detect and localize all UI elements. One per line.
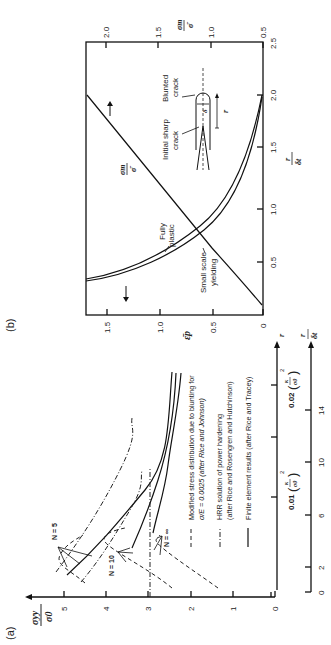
r-delta-tick-14: 14 bbox=[317, 406, 326, 415]
svg-text:2: 2 bbox=[279, 470, 285, 474]
sigma-yy-ticks: 0 1 2 3 4 5 bbox=[60, 591, 280, 611]
svg-text:σ0: σ0 bbox=[292, 379, 298, 385]
r-tick-1.0: 1.0 bbox=[269, 203, 278, 215]
small-scale-yielding-label-2: yielding bbox=[209, 259, 218, 286]
panel-b-label: (b) bbox=[4, 319, 16, 332]
arrow-right-axis-icon bbox=[107, 101, 113, 116]
r-tick-0.01: 0.01 bbox=[287, 494, 296, 510]
r-delta-label-num-b: r bbox=[283, 157, 292, 161]
blunted-crack-label-1: Blunted bbox=[161, 75, 170, 102]
initial-crack-label-2: crack bbox=[171, 130, 180, 150]
r-delta-axis-arrow-icon bbox=[308, 341, 314, 348]
r-tick-0.02: 0.02 bbox=[287, 392, 296, 408]
epsilon-p-axis-label: ε̄p bbox=[181, 331, 192, 340]
fully-plastic-label-1: Fully bbox=[158, 223, 167, 240]
kappa-frac-b: ( κ σ0 ) 2 bbox=[279, 368, 300, 390]
legend-item-1-line-1: Modified stress distribution due to blun… bbox=[187, 375, 196, 520]
sigma-m-curve-label-num: σm bbox=[118, 164, 127, 175]
crack-schematic: Initial sharp crack Blunted crack δ r bbox=[161, 68, 230, 170]
r-delta-label-den-b: δt bbox=[294, 158, 303, 165]
fe-curve-n5 bbox=[67, 372, 172, 575]
epsilon-tick-1.5: 1.5 bbox=[103, 321, 112, 333]
epsilon-tick-1.0: 1.0 bbox=[156, 321, 165, 333]
sigma-yy-tick-5: 5 bbox=[60, 606, 69, 611]
sigma-m-tick-2.0: 2.0 bbox=[102, 26, 111, 38]
r-delta-tick-10: 10 bbox=[317, 458, 326, 467]
svg-text:κ: κ bbox=[283, 379, 289, 383]
sigma-yy-tick-3: 3 bbox=[144, 606, 153, 611]
sigma-yy-label-den: σ0 bbox=[43, 612, 54, 622]
sigma-yy-axis-arrow-icon bbox=[25, 594, 32, 600]
r-symbol: r bbox=[221, 109, 230, 113]
svg-text:2: 2 bbox=[279, 368, 285, 372]
sigma-m-tick-1.5: 1.5 bbox=[154, 26, 163, 38]
label-n5: N = 5 bbox=[51, 523, 58, 540]
sigma-yy-tick-4: 4 bbox=[102, 606, 111, 611]
delta-symbol: δ bbox=[201, 109, 209, 113]
legend-item-3-line-1: Finite element results (after Rice and T… bbox=[244, 377, 253, 520]
svg-text:κ: κ bbox=[283, 481, 289, 485]
svg-text:): ) bbox=[285, 473, 300, 477]
label-ninf: N = ∞ bbox=[163, 529, 170, 547]
sigma-yy-tick-2: 2 bbox=[187, 606, 196, 611]
kappa-frac-a: ( κ σ0 ) 2 bbox=[279, 470, 300, 492]
epsilon-tick-0: 0 bbox=[259, 323, 268, 328]
r-delta-tick-6: 6 bbox=[317, 513, 326, 518]
fe-curve-n10 bbox=[132, 373, 176, 548]
fully-plastic-label-2: plastic bbox=[167, 224, 176, 247]
legend-item-2-line-2: (after Rice and Rosengren and Hutchinson… bbox=[225, 381, 234, 520]
r-axis-label: r bbox=[277, 333, 286, 337]
epsilon-tick-0.5: 0.5 bbox=[209, 321, 218, 333]
epsilon-p-axis: 0 0.5 1.0 1.5 ε̄p bbox=[103, 309, 268, 340]
r-tick-0.5: 0.5 bbox=[269, 256, 278, 268]
svg-text:σ0: σ0 bbox=[292, 481, 298, 487]
figure: (b) 0 0.5 1.0 1.5 ε̄p 0.5 1.0 1.5 2.0 σm bbox=[0, 0, 331, 645]
sigma-m-tick-1.0: 1.0 bbox=[207, 26, 216, 38]
panel-a-label: (a) bbox=[4, 627, 16, 640]
sigma-yy-tick-0: 0 bbox=[271, 606, 280, 611]
blunted-crack-label-2: crack bbox=[171, 77, 180, 97]
legend-item-2-line-1: HRR solution of power hardening bbox=[215, 414, 224, 520]
panel-a: (a) 0 1 2 3 4 5 σyy σ0 r 0.01 0.02 bbox=[4, 329, 326, 640]
legend: Modified stress distribution due to blun… bbox=[187, 375, 253, 547]
panel-b: (b) 0 0.5 1.0 1.5 ε̄p 0.5 1.0 1.5 2.0 σm bbox=[4, 19, 303, 340]
legend-item-1-line-2: σ/E = 0.0025 (after Rice and Johnson) bbox=[197, 398, 206, 520]
r-tick-2.0: 2.0 bbox=[269, 89, 278, 101]
curve-sigma-m bbox=[87, 95, 262, 305]
r-delta-tick-0: 0 bbox=[317, 590, 326, 595]
sigma-m-tick-0.5: 0.5 bbox=[259, 26, 268, 38]
sigma-m-axis: 0.5 1.0 1.5 2.0 σm σ̄ bbox=[102, 19, 268, 48]
label-n10: N = 10 bbox=[108, 555, 115, 576]
small-scale-yielding-label-1: Small scale bbox=[199, 252, 208, 293]
sigma-yy-tick-1: 1 bbox=[229, 606, 238, 611]
r-delta-label-num-a: r bbox=[298, 333, 307, 337]
r-delta-label-den-a: δt bbox=[310, 332, 319, 339]
curve-fully-plastic bbox=[86, 95, 262, 279]
r-axis-arrow-icon bbox=[274, 341, 280, 348]
r-over-delta-axis-b: 0.5 1.0 1.5 2.0 2.5 r δt bbox=[257, 37, 303, 268]
sigma-m-axis-label-num: σm bbox=[175, 19, 184, 30]
sigma-m-curve-label-den: σ̄ bbox=[129, 166, 138, 172]
r-delta-tick-2: 2 bbox=[317, 565, 326, 570]
svg-text:): ) bbox=[285, 371, 300, 375]
sigma-yy-label-num: σyy bbox=[29, 610, 40, 625]
sigma-m-axis-label-den: σ̄ bbox=[186, 22, 195, 28]
fe-curve-ninf bbox=[153, 373, 181, 533]
initial-crack-label-1: Initial sharp bbox=[161, 119, 170, 160]
curve-small-scale-yielding bbox=[86, 97, 262, 281]
arrow-left-axis-icon bbox=[123, 286, 129, 302]
r-tick-1.5: 1.5 bbox=[269, 141, 278, 153]
r-tick-2.5: 2.5 bbox=[269, 37, 278, 49]
blunt-curve-n5 bbox=[59, 535, 85, 583]
